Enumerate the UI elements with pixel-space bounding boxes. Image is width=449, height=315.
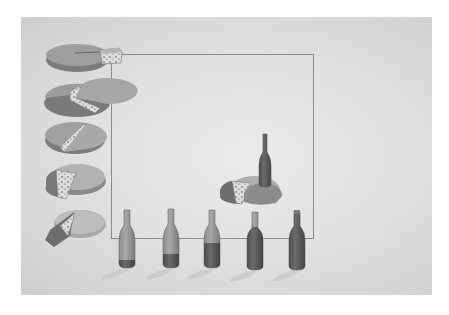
wine-bottle-4 (247, 212, 263, 270)
combination-wine-bottle (259, 134, 271, 187)
wine-bottle-3 (204, 210, 220, 268)
cheese-wheel-2 (44, 78, 138, 117)
cheese-and-bottle-combination (220, 134, 282, 205)
wine-bottle-1 (119, 210, 135, 268)
cheese-wheel-5 (45, 210, 106, 247)
cheese-wedge-1 (100, 48, 122, 64)
cheese-wheel-4 (45, 164, 106, 199)
cheese-wheel-1 (46, 44, 122, 72)
wine-bottle-2 (163, 209, 179, 268)
illustration-canvas (0, 0, 449, 315)
wine-bottle-5 (289, 210, 305, 270)
bottle-shadows (101, 266, 299, 283)
cheese-wheel-3 (45, 122, 107, 154)
